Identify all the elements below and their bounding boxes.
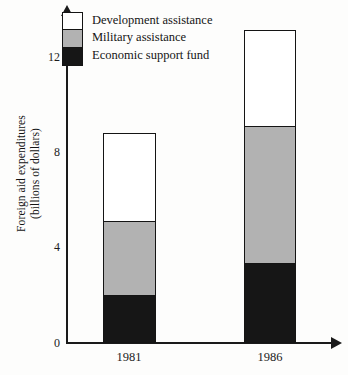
legend-label-column: Development assistance Military assistan… [92,12,212,64]
legend-label-military-assistance: Military assistance [92,29,212,46]
legend-label-economic-support-fund: Economic support fund [92,47,212,64]
bar-1981-segment-economic-support-fund[interactable] [103,295,156,343]
legend-swatch-economic-support-fund [63,48,82,65]
bar-1981-segment-development-assistance[interactable] [103,133,156,222]
stacked-bar-chart: Foreign aid expenditures (billions of do… [0,0,348,375]
y-tick-label-12: 12 [34,51,60,63]
y-tick-0: 0 [34,337,60,349]
bar-1981-segment-military-assistance[interactable] [103,221,156,296]
x-axis-arrow-icon [331,337,342,349]
bar-1986[interactable] [244,30,296,343]
bar-1986-segment-development-assistance[interactable] [244,30,296,127]
bar-1986-segment-military-assistance[interactable] [244,126,296,264]
x-tick-label-1981: 1981 [89,350,169,364]
y-tick-8: 8 [34,146,60,158]
y-tick-12: 12 [34,51,60,63]
bar-1981[interactable] [103,133,156,343]
y-axis-title-line1: Foreign aid expenditures [15,74,29,274]
y-tick-label-0: 0 [34,337,60,349]
y-tick-label-4: 4 [34,241,60,253]
legend-swatch-military-assistance [63,30,82,47]
legend-swatch-development-assistance [63,13,82,30]
y-tick-4: 4 [34,241,60,253]
x-tick-label-1986: 1986 [230,350,310,364]
legend-swatch-column [62,12,83,66]
y-tick-label-8: 8 [34,146,60,158]
bar-1986-segment-economic-support-fund[interactable] [244,263,296,343]
legend: Development assistance Military assistan… [62,12,212,66]
legend-label-development-assistance: Development assistance [92,12,212,29]
